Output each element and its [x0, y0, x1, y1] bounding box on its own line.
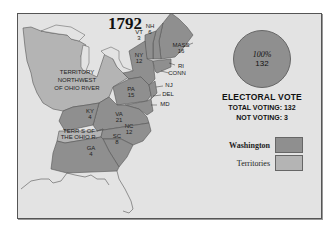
total-voting: TOTAL VOTING: 132 [214, 104, 310, 111]
not-voting: NOT VOTING: 3 [214, 114, 310, 121]
legend-item-territories: Territories [200, 155, 303, 171]
label-nj: NJ [165, 82, 172, 88]
legend-label: Washington [200, 141, 270, 150]
label-conn: CONN [168, 70, 186, 76]
map-title: 1792 [108, 14, 142, 34]
label-pa: PA15 [127, 86, 135, 98]
label-va: VA21 [115, 111, 123, 123]
label-ny: NY12 [135, 52, 143, 64]
state-mass-maine [159, 14, 193, 59]
pie-percent: 100% [253, 50, 272, 59]
electoral-pie-chart: 100% 132 [233, 30, 291, 88]
label-territory-south: TERR S OFTHE OHIO R. [61, 128, 98, 140]
label-ri: RI [178, 63, 184, 69]
label-md: MD [160, 101, 170, 107]
florida-coastline [21, 171, 133, 213]
legend-item-washington: Washington [200, 137, 303, 153]
pie-value: 132 [255, 59, 268, 68]
label-del: DEL [162, 91, 174, 97]
legend-swatch-washington [275, 137, 303, 153]
electoral-vote-title: ELECTORAL VOTE [214, 92, 310, 102]
legend-swatch-territories [275, 155, 303, 171]
legend-label: Territories [200, 159, 270, 168]
label-northwest-territory: TERRITORYNORTHWESTOF OHIO RIVER [54, 69, 100, 91]
